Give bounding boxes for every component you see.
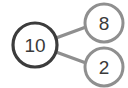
part-node-bottom-label: 2 <box>99 57 110 78</box>
whole-node-label: 10 <box>24 35 45 56</box>
connector-whole-to-bottom <box>56 52 86 63</box>
connector-whole-to-top <box>56 27 86 38</box>
number-bond-diagram: 8 2 10 <box>0 0 128 88</box>
part-node-top-label: 8 <box>99 13 110 34</box>
